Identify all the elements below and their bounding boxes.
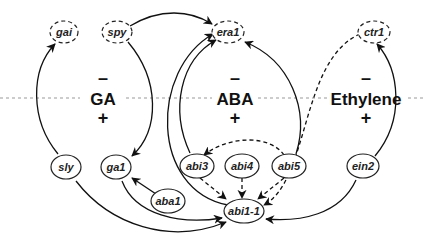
edge-abi5-abi3 [204, 140, 284, 155]
svg-text:abi5: abi5 [278, 160, 301, 172]
node-abi5: abi5 [272, 154, 306, 178]
edge-spy-era1 [130, 13, 212, 26]
node-spy: spy [102, 21, 132, 43]
ga-plus: + [98, 108, 109, 128]
aba-minus: – [230, 68, 240, 88]
ethylene-minus: – [361, 68, 371, 88]
node-ga1: ga1 [101, 155, 131, 179]
edge-sly-abi1-1 [76, 181, 226, 232]
aba-plus: + [230, 108, 241, 128]
node-abi3: abi3 [180, 154, 214, 178]
svg-text:abi3: abi3 [186, 160, 208, 172]
svg-text:abi4: abi4 [231, 160, 253, 172]
edge-sly-gai [37, 44, 58, 154]
svg-text:ctr1: ctr1 [364, 26, 384, 38]
node-ctr1: ctr1 [358, 21, 390, 43]
edge-abi5-abi1-1 [258, 178, 284, 199]
aba-label: ABA [217, 90, 254, 109]
node-gai: gai [50, 21, 78, 43]
node-era1: era1 [212, 21, 244, 43]
ethylene-label: Ethylene [331, 90, 402, 109]
edge-spy-ga1 [128, 42, 153, 156]
svg-text:abi1-1: abi1-1 [228, 205, 260, 217]
svg-text:spy: spy [108, 26, 128, 38]
ethylene-plus: + [361, 108, 372, 128]
svg-text:era1: era1 [217, 26, 240, 38]
svg-text:gai: gai [55, 26, 73, 38]
edge-abi1-1-era1 [167, 34, 228, 205]
ga-label: GA [90, 90, 116, 109]
edge-ein2-abi1-1 [266, 180, 356, 220]
hormone-aba: – ABA + [212, 68, 258, 128]
node-abi1-1: abi1-1 [224, 199, 264, 223]
hormone-ga: – GA + [80, 68, 126, 128]
node-ein2: ein2 [347, 154, 379, 178]
svg-text:ga1: ga1 [106, 161, 126, 173]
svg-text:ein2: ein2 [352, 160, 374, 172]
node-abi4: abi4 [225, 154, 259, 178]
edges [37, 13, 396, 232]
svg-text:aba1: aba1 [155, 195, 180, 207]
edge-aba1-ga1 [132, 178, 156, 194]
svg-text:sly: sly [58, 161, 74, 173]
edge-abi3-era1 [180, 40, 216, 153]
node-sly: sly [51, 155, 81, 179]
ga-minus: – [98, 68, 108, 88]
edge-ctr1-abi1-1 [264, 34, 360, 205]
node-aba1: aba1 [151, 189, 185, 213]
hormone-interaction-diagram: – GA + – ABA + – Ethylene + [0, 0, 426, 249]
